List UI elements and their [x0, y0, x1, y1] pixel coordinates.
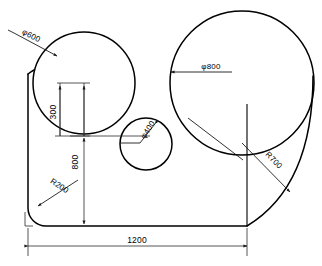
cad-canvas: 300 800 1200 φ600 φ800 φ400 R200 R700 — [0, 0, 322, 266]
cad-drawing-root: 300 800 1200 φ600 φ800 φ400 R200 R700 — [0, 0, 322, 266]
dim-label-1200: 1200 — [127, 235, 147, 245]
dim-label-phi800: φ800 — [201, 62, 221, 71]
circle-phi800 — [170, 11, 314, 155]
dim-label-800: 800 — [70, 155, 80, 170]
leader-phi600-shelf — [8, 30, 14, 33]
left-tangent-blend — [28, 70, 34, 74]
right-sweep-arc — [247, 76, 313, 226]
dim-label-300: 300 — [48, 105, 58, 120]
dim-label-phi400: φ400 — [139, 119, 157, 140]
